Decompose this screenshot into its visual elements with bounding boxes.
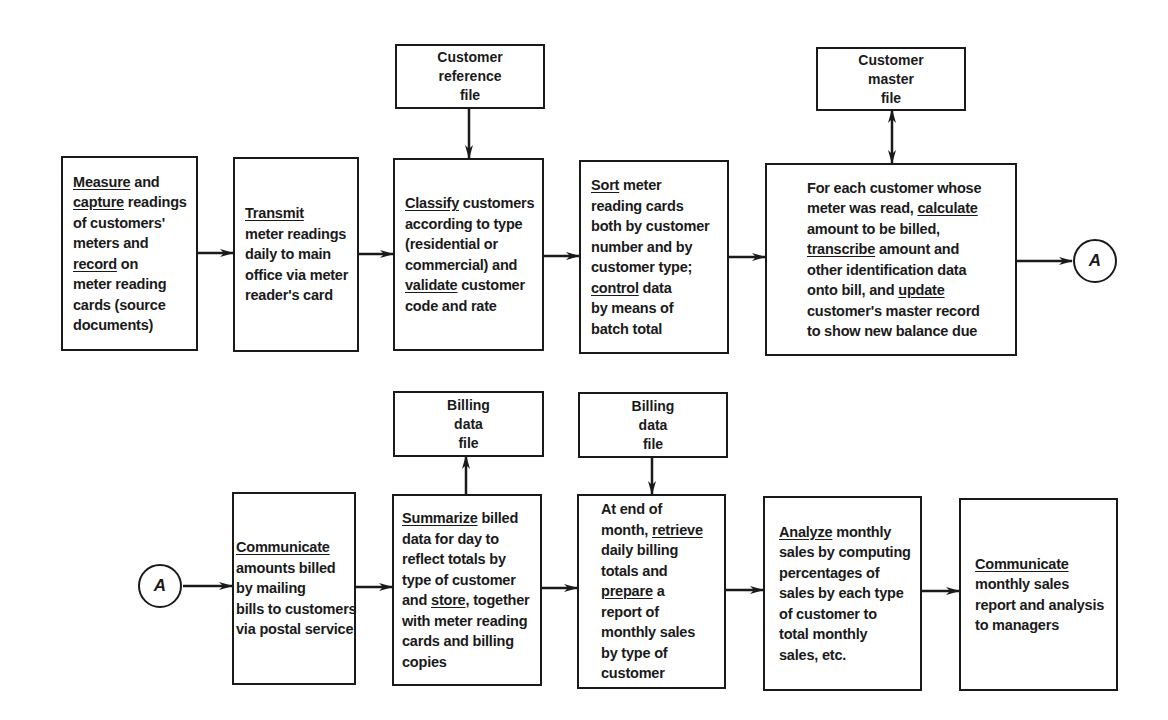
step-text-line: by type of bbox=[601, 643, 714, 664]
step-text: of customers' bbox=[73, 215, 165, 231]
step-text: a bbox=[653, 583, 665, 599]
step-text: copies bbox=[402, 654, 447, 670]
action-verb: capture bbox=[73, 194, 124, 210]
step-summarize: Summarize billeddata for day toreflect t… bbox=[392, 494, 542, 686]
step-text: commercial) and bbox=[405, 257, 517, 273]
step-transmit: Transmitmeter readingsdaily to mainoffic… bbox=[233, 157, 359, 352]
step-text-line: code and rate bbox=[405, 296, 532, 317]
connector-a-in: A bbox=[138, 564, 182, 608]
step-text: data for day to bbox=[402, 531, 499, 547]
step-analyze: Analyze monthlysales by computingpercent… bbox=[763, 496, 922, 691]
step-text: data bbox=[639, 280, 672, 296]
step-text: documents) bbox=[73, 317, 153, 333]
step-text: and bbox=[402, 592, 431, 608]
step-text-line: number and by bbox=[591, 237, 717, 258]
step-text-line: data for day to bbox=[402, 529, 530, 550]
step-text: other identification data bbox=[807, 262, 966, 278]
step-text: with meter reading bbox=[402, 613, 527, 629]
action-verb: Sort bbox=[591, 177, 619, 193]
step-text: amount and bbox=[875, 241, 959, 257]
step-text: amounts billed bbox=[236, 560, 336, 576]
step-text-line: with meter reading bbox=[402, 611, 530, 632]
step-text-line: Summarize billed bbox=[402, 508, 530, 529]
step-text: by mailing bbox=[236, 580, 306, 596]
step-text: meter was read, bbox=[807, 200, 917, 216]
step-text-line: Classify customers bbox=[405, 193, 532, 214]
step-text: cards and billing bbox=[402, 633, 514, 649]
step-text-line: capture readings bbox=[73, 192, 186, 213]
step-text-line: of customer to bbox=[779, 604, 910, 625]
step-text: monthly sales bbox=[975, 576, 1069, 592]
action-verb: Measure bbox=[73, 174, 130, 190]
step-text-line: according to type bbox=[405, 214, 532, 235]
step-text-line: Sort meter bbox=[591, 175, 717, 196]
step-text: monthly sales bbox=[601, 624, 695, 640]
step-text-line: reading cards bbox=[591, 196, 717, 217]
step-text: daily to main bbox=[245, 246, 331, 262]
step-text-line: For each customer whose bbox=[807, 178, 1005, 199]
step-text-line: to show new balance due bbox=[807, 321, 1005, 342]
step-text: customer bbox=[457, 277, 525, 293]
step-text-line: reader's card bbox=[245, 285, 347, 306]
step-text-line: batch total bbox=[591, 319, 717, 340]
step-calculate: For each customer whosemeter was read, c… bbox=[765, 163, 1017, 356]
step-text-line: Measure and bbox=[73, 172, 186, 193]
step-text-line: copies bbox=[402, 652, 530, 673]
step-text: percentages of bbox=[779, 565, 879, 581]
step-text: sales by each type bbox=[779, 585, 904, 601]
step-text-line: to managers bbox=[975, 615, 1106, 636]
connector-a-out: A bbox=[1073, 239, 1117, 283]
step-text: monthly bbox=[832, 524, 891, 540]
step-text-line: by mailing bbox=[236, 578, 352, 599]
step-text: cards (source bbox=[73, 297, 166, 313]
step-text: and bbox=[130, 174, 159, 190]
step-text: readings bbox=[124, 194, 187, 210]
step-text: sales, etc. bbox=[779, 647, 846, 663]
step-text-line: office via meter bbox=[245, 265, 347, 286]
step-text: daily billing bbox=[601, 542, 678, 558]
step-text-line: via postal service bbox=[236, 619, 352, 640]
step-text-line: report and analysis bbox=[975, 595, 1106, 616]
action-verb: store bbox=[431, 592, 465, 608]
step-text-line: customer bbox=[601, 663, 714, 684]
step-text-line: Communicate bbox=[236, 537, 352, 558]
step-text-line: Communicate bbox=[975, 554, 1106, 575]
step-text: customer type; bbox=[591, 259, 692, 275]
step-text-line: percentages of bbox=[779, 563, 910, 584]
file-label-line: Billing bbox=[395, 396, 542, 415]
step-text-line: transcribe amount and bbox=[807, 239, 1005, 260]
step-text: For each customer whose bbox=[807, 180, 981, 196]
step-text-line: sales by each type bbox=[779, 583, 910, 604]
step-text-line: report of bbox=[601, 602, 714, 623]
file-customer-master: Customer master file bbox=[816, 47, 966, 111]
step-text: to show new balance due bbox=[807, 323, 977, 339]
step-text-line: At end of bbox=[601, 499, 714, 520]
step-text-line: cards (source bbox=[73, 295, 186, 316]
file-label-line: file bbox=[395, 434, 542, 453]
action-verb: Transmit bbox=[245, 205, 304, 221]
step-text-line: monthly sales bbox=[601, 622, 714, 643]
step-text: code and rate bbox=[405, 298, 497, 314]
step-text: reader's card bbox=[245, 287, 333, 303]
step-text: customers bbox=[459, 195, 534, 211]
step-text: At end of bbox=[601, 501, 662, 517]
step-text: report of bbox=[601, 604, 659, 620]
action-verb: transcribe bbox=[807, 241, 875, 257]
step-text-line: sales by computing bbox=[779, 542, 910, 563]
file-customer-reference: Customer reference file bbox=[395, 44, 545, 109]
step-text: by means of bbox=[591, 300, 673, 316]
step-text-line: meter was read, calculate bbox=[807, 198, 1005, 219]
step-text: meter readings bbox=[245, 226, 346, 242]
connector-label: A bbox=[1089, 251, 1101, 271]
step-text: reading cards bbox=[591, 198, 684, 214]
action-verb: prepare bbox=[601, 583, 653, 599]
step-text: month, bbox=[601, 522, 652, 538]
step-text-line: and store, together bbox=[402, 590, 530, 611]
action-verb: validate bbox=[405, 277, 457, 293]
step-text-line: totals and bbox=[601, 561, 714, 582]
step-text-line: amount to be billed, bbox=[807, 219, 1005, 240]
step-text: to managers bbox=[975, 617, 1059, 633]
step-text-line: bills to customers bbox=[236, 599, 352, 620]
step-text: onto bill, and bbox=[807, 282, 898, 298]
step-text: total monthly bbox=[779, 626, 867, 642]
